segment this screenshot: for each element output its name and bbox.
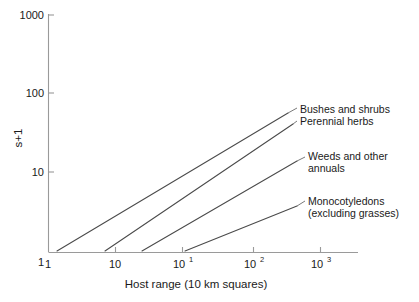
x-tick-label-10: 10: [109, 258, 121, 270]
series-label-weeds-and-other-annuals-line1: Weeds and other: [308, 150, 388, 162]
y-tick-label-100: 100: [26, 87, 44, 99]
y-tick-label-1000: 1000: [20, 9, 44, 21]
x-tick-label-10e2-exponent: 2: [260, 255, 264, 264]
y-tick-label-1: 1: [38, 256, 44, 268]
x-tick-label-1: 1: [45, 258, 51, 270]
x-tick-label-10e1-exponent: 1: [189, 255, 193, 264]
x-tick-label-10e3-group: 10 3: [311, 255, 331, 270]
leader-line-weeds-and-other-annuals: [297, 157, 305, 161]
leader-line-bushes-and-shrubs: [288, 108, 297, 113]
x-axis-title: Host range (10 km squares): [125, 278, 268, 290]
x-tick-label-10e3-exponent: 3: [327, 255, 331, 264]
x-tick-label-10e1-base: 10: [173, 258, 185, 270]
x-tick-label-10e3-base: 10: [311, 258, 323, 270]
x-tick-label-10e1-group: 10 1: [173, 255, 193, 270]
series-label-weeds-and-other-annuals-line2: annuals: [308, 162, 345, 174]
series-label-perennial-herbs: Perennial herbs: [300, 115, 374, 127]
series-label-monocotyledons-line2: (excluding grasses): [308, 207, 399, 219]
leader-line-monocotyledons: [297, 201, 305, 206]
y-tick-label-10: 10: [32, 166, 44, 178]
data-line-bushes-and-shrubs: [57, 113, 288, 251]
leader-line-perennial-herbs: [293, 121, 297, 124]
series-label-monocotyledons-line1: Monocotyledons: [308, 195, 384, 207]
data-line-monocotyledons: [185, 206, 297, 251]
series-label-bushes-and-shrubs: Bushes and shrubs: [300, 103, 390, 115]
chart-figure: 1000 100 10 1 s+1 1 10 10 1 10 2 10 3 Ho…: [0, 0, 419, 302]
data-line-perennial-herbs: [105, 124, 293, 251]
x-tick-label-10e2-base: 10: [244, 258, 256, 270]
x-tick-label-10e2-group: 10 2: [244, 255, 264, 270]
chart-plot-area: 1000 100 10 1 s+1 1 10 10 1 10 2 10 3 Ho…: [0, 0, 419, 302]
y-axis-title: s+1: [12, 129, 24, 148]
